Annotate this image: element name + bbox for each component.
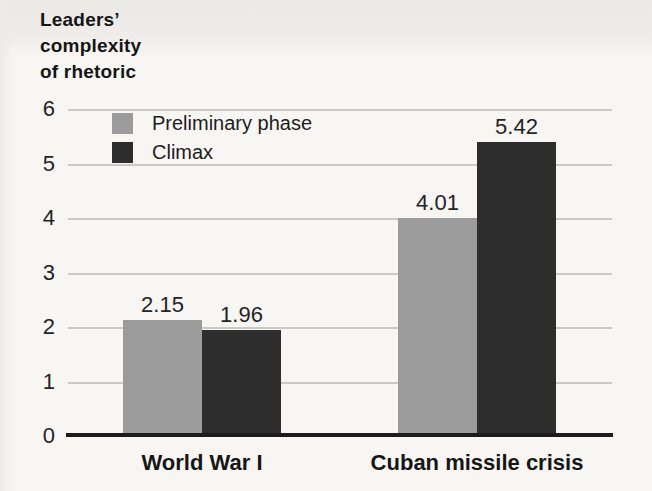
legend-label: Climax <box>152 141 213 164</box>
legend-item: Preliminary phase <box>112 112 372 135</box>
bar-value-label: 5.42 <box>477 114 556 140</box>
legend-swatch <box>112 142 133 163</box>
bar-preliminary-0 <box>123 320 202 437</box>
bar-value-label: 2.15 <box>123 292 202 318</box>
x-axis-line <box>66 433 613 437</box>
y-tick-label: 2 <box>12 314 55 340</box>
y-tick-label: 3 <box>12 259 55 285</box>
bar-preliminary-1 <box>398 218 477 437</box>
y-tick-label: 1 <box>12 368 55 394</box>
scanned-book-page: Leaders’ complexity of rhetoric 01234562… <box>0 0 652 491</box>
y-tick-label: 4 <box>12 205 55 231</box>
legend-item: Climax <box>112 141 372 164</box>
bar-climax-0 <box>202 330 281 437</box>
legend-label: Preliminary phase <box>152 112 312 135</box>
y-tick-label: 6 <box>12 96 55 122</box>
y-tick-label: 0 <box>12 423 55 449</box>
y-tick-label: 5 <box>12 150 55 176</box>
chart-legend: Preliminary phaseClimax <box>112 112 372 172</box>
gridline <box>68 109 612 111</box>
category-label: World War I <box>142 450 263 476</box>
bar-climax-1 <box>477 142 556 437</box>
legend-swatch <box>112 113 133 134</box>
bar-value-label: 1.96 <box>202 302 281 328</box>
bar-value-label: 4.01 <box>398 190 477 216</box>
chart-title: Leaders’ complexity of rhetoric <box>40 7 141 85</box>
category-label: Cuban missile crisis <box>371 450 584 476</box>
